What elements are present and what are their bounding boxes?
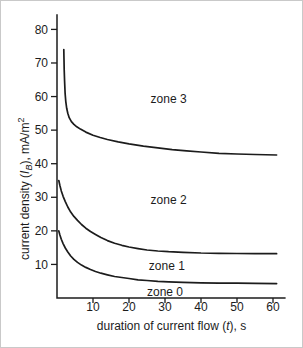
y-tick-label: 50 (35, 123, 49, 137)
x-tick-label: 60 (266, 300, 280, 314)
x-tick-label: 30 (158, 300, 172, 314)
chart-canvas: 1020304050607080102030405060zone 3zone 2… (1, 1, 303, 348)
zone-label: zone 1 (149, 259, 185, 273)
curve-zone0-zone1-boundary (59, 231, 277, 284)
x-title-units: ), s (230, 319, 247, 333)
x-title-text: duration of current flow ( (97, 319, 226, 333)
x-axis-title: duration of current flow (t), s (57, 319, 286, 333)
y-tick-label: 80 (35, 23, 49, 37)
y-title-units: ), mA/m (18, 123, 32, 165)
y-tick-label: 60 (35, 90, 49, 104)
curve-zone1-zone2-boundary (59, 181, 277, 254)
zone-label: zone 2 (151, 193, 187, 207)
y-tick-label: 20 (35, 224, 49, 238)
y-title-superscript: 2 (16, 118, 26, 123)
x-tick-label: 40 (194, 300, 208, 314)
y-tick-label: 10 (35, 258, 49, 272)
x-tick-label: 20 (122, 300, 136, 314)
figure-current-density-zones: 1020304050607080102030405060zone 3zone 2… (0, 0, 303, 348)
y-tick-label: 40 (35, 157, 49, 171)
zone-label: zone 3 (151, 92, 187, 106)
x-tick-label: 50 (230, 300, 244, 314)
y-title-text: current density ( (18, 174, 32, 260)
y-title-subscript: B (24, 165, 34, 171)
axis-spines (57, 14, 286, 298)
y-tick-label: 30 (35, 190, 49, 204)
y-title-symbol: I (18, 171, 32, 174)
zone-label: zone 0 (147, 285, 183, 299)
y-axis-title: current density (IB), mA/m2 (14, 118, 36, 260)
y-tick-label: 70 (35, 56, 49, 70)
x-tick-label: 10 (86, 300, 100, 314)
